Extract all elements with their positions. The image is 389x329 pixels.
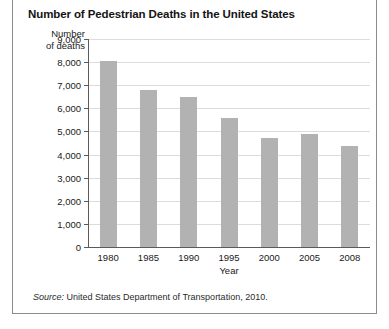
gridline	[89, 108, 370, 109]
source-text: United States Department of Transportati…	[67, 292, 268, 302]
y-tick-mark	[84, 62, 88, 63]
x-tick-label: 1985	[125, 252, 171, 263]
bar-2005	[301, 134, 318, 247]
y-tick-label: 6,000	[57, 103, 81, 114]
y-tick-label: 3,000	[57, 172, 81, 183]
bar-1980	[100, 61, 117, 248]
x-tick-label: 2000	[246, 252, 292, 263]
plot-area: 9,0008,0007,0006,0005,0004,0003,0002,000…	[88, 39, 370, 248]
bar-1985	[140, 90, 157, 247]
y-tick-mark	[84, 178, 88, 179]
y-tick-label: 1,000	[57, 218, 81, 229]
source-label: Source:	[33, 292, 64, 302]
y-tick-label: 2,000	[57, 195, 81, 206]
y-tick-mark	[84, 108, 88, 109]
bar-1990	[180, 97, 197, 247]
y-tick-mark	[84, 39, 88, 40]
y-axis-line	[88, 39, 89, 248]
y-tick-label: 8,000	[57, 57, 81, 68]
y-tick-label: 0	[76, 242, 81, 253]
y-tick-mark	[84, 85, 88, 86]
x-tick-label: 2005	[287, 252, 333, 263]
y-tick-mark	[84, 201, 88, 202]
y-tick-mark	[84, 247, 88, 248]
x-tick-label: 1980	[85, 252, 131, 263]
y-tick-label: 5,000	[57, 126, 81, 137]
y-tick-label: 4,000	[57, 149, 81, 160]
y-tick-label: 7,000	[57, 80, 81, 91]
x-tick-label: 1990	[166, 252, 212, 263]
x-axis-line	[88, 247, 370, 248]
y-tick-mark	[84, 131, 88, 132]
gridline	[89, 85, 370, 86]
gridline	[89, 39, 370, 40]
y-tick-mark	[84, 224, 88, 225]
y-tick-mark	[84, 155, 88, 156]
chart-figure: Number of Pedestrian Deaths in the Unite…	[12, 0, 377, 314]
bar-2000	[261, 138, 278, 247]
x-axis-caption: Year	[88, 265, 370, 276]
x-tick-label: 1995	[206, 252, 252, 263]
gridline	[89, 62, 370, 63]
y-tick-label: 9,000	[57, 34, 81, 45]
x-tick-label: 2008	[327, 252, 373, 263]
bar-2008	[341, 146, 358, 247]
page-title: Number of Pedestrian Deaths in the Unite…	[28, 8, 295, 20]
source-note: Source: United States Department of Tran…	[33, 292, 268, 302]
bar-1995	[221, 118, 238, 247]
